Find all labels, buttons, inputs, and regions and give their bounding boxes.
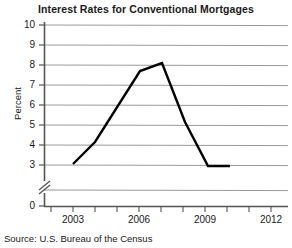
x-tick-label-2003: 2003 [53, 215, 93, 225]
y-tick-label-5: 5 [13, 120, 35, 130]
x-tick-label-2006: 2006 [119, 215, 159, 225]
y-tick-label-10: 10 [13, 20, 35, 30]
y-tick-label-8: 8 [13, 60, 35, 70]
y-tick-label-9: 9 [13, 40, 35, 50]
y-tick-label-3: 3 [13, 160, 35, 170]
chart-figure: Interest Rates for Conventional Mortgage… [0, 0, 292, 248]
y-tick-label-4: 4 [13, 140, 35, 150]
gridlines [44, 25, 288, 191]
x-axis [44, 206, 288, 212]
y-axis [39, 22, 45, 207]
x-tick-label-2009: 2009 [185, 215, 225, 225]
data-series-interest-rate [73, 63, 230, 166]
plot-area [0, 0, 292, 248]
y-tick-label-7: 7 [13, 80, 35, 90]
y-tick-label-6: 6 [13, 100, 35, 110]
x-tick-label-2012: 2012 [251, 215, 291, 225]
y-axis-break-icon [39, 181, 50, 194]
y-tick-label-0: 0 [13, 201, 35, 211]
source-note: Source: U.S. Bureau of the Census [4, 233, 152, 244]
